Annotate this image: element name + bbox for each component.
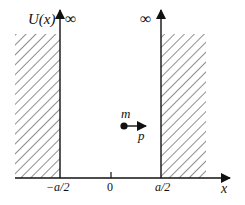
momentum-label: p <box>137 128 145 143</box>
mass-label: m <box>121 106 130 121</box>
infinite-square-well-diagram: U(x) ∞ ∞ −a/2 0 a/2 x m p <box>0 0 245 205</box>
tick-label-zero: 0 <box>107 180 113 194</box>
x-axis-label: x <box>220 181 228 196</box>
right-infinity-label: ∞ <box>140 10 151 27</box>
y-axis-label: U(x) <box>28 11 55 28</box>
right-infinite-barrier-region <box>161 34 206 178</box>
left-infinity-label: ∞ <box>65 10 76 27</box>
tick-label-half-a: a/2 <box>155 180 170 194</box>
tick-label-neg-half-a: −a/2 <box>46 180 69 194</box>
left-infinite-barrier-region <box>15 34 60 178</box>
